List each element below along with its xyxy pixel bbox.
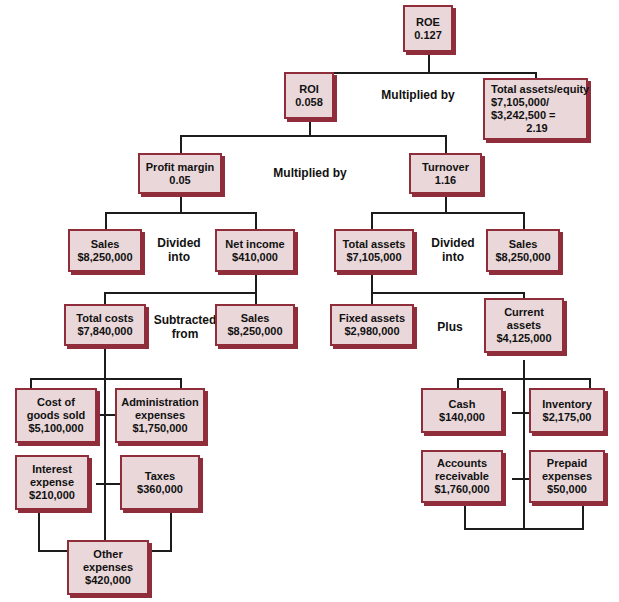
connector-roe-split <box>309 72 537 74</box>
node-total-assets[interactable]: Total assets $7,105,000 <box>334 229 414 272</box>
node-sales-sub-label: Sales <box>241 312 270 325</box>
node-turnover[interactable]: Turnover 1.16 <box>409 153 482 194</box>
node-inventory-label: Inventory <box>542 398 592 411</box>
connector-ar-down <box>464 503 466 529</box>
node-interest-expense[interactable]: Interest expense $210,000 <box>15 455 89 510</box>
connector-interest-down <box>38 508 40 552</box>
node-sales-left[interactable]: Sales $8,250,000 <box>68 229 142 272</box>
node-taxes-label: Taxes <box>145 470 175 483</box>
connector-pm-to-netinc <box>255 212 257 229</box>
node-roe-label: ROE <box>416 16 440 29</box>
node-current-assets-line2: assets <box>507 319 541 332</box>
node-other-exp-label: Other <box>93 548 122 561</box>
node-cost-of-goods-sold[interactable]: Cost of goods sold $5,100,000 <box>15 388 97 443</box>
connector-turn-to-assets <box>371 212 373 229</box>
node-interest-line2: expense <box>30 476 74 489</box>
connector-roi-split <box>180 135 446 137</box>
node-sales-subtracted[interactable]: Sales $8,250,000 <box>215 304 295 346</box>
connector-turn-to-sales <box>523 212 525 229</box>
connector-prepaid-down <box>582 503 584 529</box>
node-turnover-value: 1.16 <box>435 174 456 187</box>
node-admin-line2: expenses <box>135 409 185 422</box>
node-cash-label: Cash <box>449 398 476 411</box>
node-prepaid-line2: expenses <box>542 470 592 483</box>
connector-netinc-to-sales <box>255 292 257 304</box>
node-current-assets-label: Current <box>504 306 544 319</box>
node-roi-value: 0.058 <box>295 96 323 109</box>
operator-multiplied-mid-text: Multiplied by <box>250 166 370 180</box>
node-inventory[interactable]: Inventory $2,175,00 <box>529 388 605 433</box>
connector-assets-to-fixed <box>371 292 373 304</box>
node-taxes-value: $360,000 <box>137 483 183 496</box>
node-admin-value: $1,750,000 <box>132 422 187 435</box>
operator-multiplied-top-text: Multiplied by <box>358 88 478 102</box>
node-assets-equity-line2: $7,105,000/ <box>491 96 549 109</box>
node-cash[interactable]: Cash $140,000 <box>421 388 503 433</box>
node-fixed-assets[interactable]: Fixed assets $2,980,000 <box>330 304 414 346</box>
connector-pm-to-sales <box>105 212 107 229</box>
node-profit-margin-label: Profit margin <box>146 161 214 174</box>
node-administration-expenses[interactable]: Administration expenses $1,750,000 <box>115 388 205 443</box>
connector-turnover-split <box>371 212 523 214</box>
connector-roe-down <box>428 52 430 74</box>
connector-turnover-down <box>445 194 447 214</box>
node-accounts-receivable[interactable]: Accounts receivable $1,760,000 <box>421 450 503 503</box>
connector-roi-to-pm <box>180 135 182 153</box>
connector-costs-to-cogs <box>30 378 32 388</box>
node-sales-right-label: Sales <box>509 238 538 251</box>
connector-pm-down <box>180 194 182 214</box>
node-fixed-assets-label: Fixed assets <box>339 312 405 325</box>
node-prepaid-value: $50,000 <box>547 483 587 496</box>
node-roi[interactable]: ROI 0.058 <box>284 72 334 119</box>
node-cash-value: $140,000 <box>439 411 485 424</box>
node-current-assets[interactable]: Current assets $4,125,000 <box>484 298 564 353</box>
operator-multiplied-top: Multiplied by <box>358 88 478 102</box>
node-sales-right[interactable]: Sales $8,250,000 <box>486 229 560 272</box>
connector-roi-to-turnover <box>445 135 447 153</box>
node-total-assets-label: Total assets <box>343 238 406 251</box>
node-sales-left-label: Sales <box>91 238 120 251</box>
node-accounts-rec-label: Accounts <box>437 457 487 470</box>
connector-curr-to-cash <box>457 378 459 388</box>
node-admin-label: Administration <box>121 396 199 409</box>
node-profit-margin[interactable]: Profit margin 0.05 <box>138 153 222 194</box>
connector-interest-bottom <box>38 550 68 552</box>
connector-taxes-down <box>170 508 172 552</box>
node-net-income-value: $410,000 <box>232 251 278 264</box>
node-total-assets-equity[interactable]: Total assets/equity $7,105,000/ $3,242,5… <box>483 78 588 140</box>
connector-netinc-down <box>255 272 257 294</box>
node-sales-left-value: $8,250,000 <box>77 251 132 264</box>
operator-multiplied-mid: Multiplied by <box>250 166 370 180</box>
node-prepaid-expenses[interactable]: Prepaid expenses $50,000 <box>529 450 605 503</box>
operator-subtracted-line2: from <box>150 327 220 341</box>
node-cogs-value: $5,100,000 <box>28 422 83 435</box>
node-total-costs-label: Total costs <box>76 312 133 325</box>
node-accounts-rec-value: $1,760,000 <box>434 483 489 496</box>
operator-divided-right-line1: Divided <box>419 236 487 250</box>
connector-assets-split <box>371 292 523 294</box>
node-cogs-line2: goods sold <box>27 409 86 422</box>
node-taxes[interactable]: Taxes $360,000 <box>120 455 200 510</box>
connector-taxes-bottom <box>148 550 172 552</box>
node-interest-value: $210,000 <box>29 489 75 502</box>
connector-costs-top-bar <box>30 378 180 380</box>
operator-divided-left-line2: into <box>145 250 213 264</box>
operator-divided-left-line1: Divided <box>145 236 213 250</box>
node-other-expenses[interactable]: Other expenses $420,000 <box>67 540 149 595</box>
node-net-income[interactable]: Net income $410,000 <box>215 229 295 272</box>
connector-curr-to-inv <box>589 378 591 388</box>
node-other-exp-line2: expenses <box>83 561 133 574</box>
node-inventory-value: $2,175,00 <box>543 411 592 424</box>
connector-netinc-split <box>104 292 257 294</box>
node-roe-value: 0.127 <box>414 29 442 42</box>
node-other-exp-value: $420,000 <box>85 574 131 587</box>
node-net-income-label: Net income <box>225 238 284 251</box>
operator-plus-text: Plus <box>420 320 480 334</box>
node-total-costs-value: $7,840,000 <box>77 325 132 338</box>
node-total-costs[interactable]: Total costs $7,840,000 <box>64 304 146 346</box>
operator-divided-right-line2: into <box>419 250 487 264</box>
node-roi-label: ROI <box>299 83 319 96</box>
node-roe[interactable]: ROE 0.127 <box>403 5 453 52</box>
connector-costs-to-admin <box>180 378 182 388</box>
node-profit-margin-value: 0.05 <box>169 174 190 187</box>
